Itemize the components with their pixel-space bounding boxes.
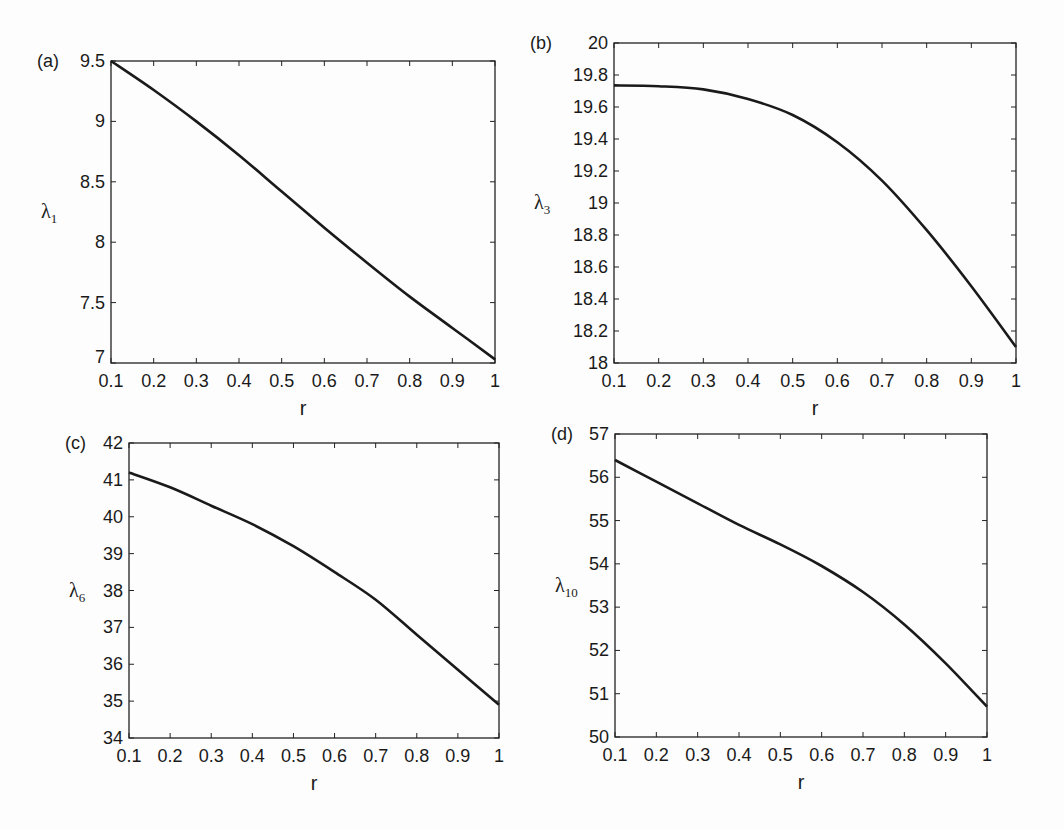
x-tick-label: 0.6 [312,371,337,391]
x-tick-label: 0.5 [269,371,294,391]
y-tick-label: 18.2 [573,321,608,341]
x-tick-label: 0.8 [914,371,939,391]
x-tick-label: 0.7 [363,746,388,766]
y-tick-label: 20 [588,33,608,53]
x-axis-label: r [311,772,318,794]
y-tick-label: 7.5 [80,293,105,313]
x-tick-label: 0.3 [685,745,710,765]
x-tick-label: 0.8 [397,371,422,391]
y-tick-label: 7 [95,347,105,367]
y-tick-label: 8 [95,232,105,252]
y-tick-label: 37 [103,617,123,637]
y-tick-label: 36 [103,654,123,674]
panel-label: (d) [551,424,573,444]
x-tick-label: 0.6 [809,745,834,765]
x-tick-label: 1 [1011,371,1021,391]
x-tick-label: 0.1 [601,371,626,391]
y-tick-label: 19 [588,193,608,213]
x-axis-label: r [812,397,819,419]
x-tick-label: 0.9 [959,371,984,391]
x-tick-label: 0.4 [226,371,251,391]
y-tick-label: 19.6 [573,97,608,117]
x-tick-label: 0.7 [869,371,894,391]
data-line [111,61,495,359]
x-tick-label: 0.4 [240,746,265,766]
x-tick-label: 0.1 [602,745,627,765]
data-line [615,460,987,707]
x-tick-label: 0.5 [281,746,306,766]
y-tick-label: 18.8 [573,225,608,245]
x-tick-label: 0.5 [780,371,805,391]
y-tick-label: 56 [589,467,609,487]
panel-label: (b) [530,33,552,53]
x-tick-label: 0.2 [644,745,669,765]
x-tick-label: 1 [982,745,992,765]
x-tick-label: 0.9 [445,746,470,766]
y-tick-label: 42 [103,433,123,453]
y-tick-label: 19.4 [573,129,608,149]
y-tick-label: 53 [589,597,609,617]
x-tick-label: 0.3 [184,371,209,391]
x-tick-label: 0.1 [116,746,141,766]
y-tick-label: 18.4 [573,289,608,309]
x-tick-label: 0.1 [98,371,123,391]
y-tick-label: 34 [103,728,123,748]
y-tick-label: 38 [103,581,123,601]
data-line [614,85,1016,347]
panel-label: (a) [37,51,59,71]
y-tick-label: 52 [589,640,609,660]
x-tick-label: 0.8 [404,746,429,766]
y-axis-label: λ6 [69,579,86,605]
x-tick-label: 0.6 [322,746,347,766]
axes-frame [614,43,1016,363]
y-tick-label: 41 [103,470,123,490]
x-axis-label: r [798,771,805,793]
y-tick-label: 9 [95,111,105,131]
y-tick-label: 8.5 [80,172,105,192]
y-tick-label: 18 [588,353,608,373]
y-tick-label: 50 [589,727,609,747]
y-axis-label: λ1 [41,200,57,226]
x-tick-label: 0.7 [354,371,379,391]
y-tick-label: 19.2 [573,161,608,181]
panel-label: (c) [65,433,86,453]
x-tick-label: 1 [494,746,504,766]
data-line [129,473,499,705]
y-tick-label: 9.5 [80,51,105,71]
y-tick-label: 57 [589,424,609,444]
x-tick-label: 0.9 [440,371,465,391]
x-tick-label: 0.8 [892,745,917,765]
y-tick-label: 35 [103,691,123,711]
x-tick-label: 0.2 [141,371,166,391]
x-tick-label: 0.9 [933,745,958,765]
x-tick-label: 0.4 [726,745,751,765]
axes-frame [129,443,499,738]
x-axis-label: r [300,397,307,419]
axes-frame [615,434,987,737]
panel-d: 0.10.20.30.40.50.60.70.80.91505152535455… [551,424,992,793]
y-axis-label: λ10 [555,574,578,600]
panel-c: 0.10.20.30.40.50.60.70.80.91343536373839… [65,433,504,794]
x-tick-label: 0.4 [735,371,760,391]
x-tick-label: 0.3 [199,746,224,766]
figure: 0.10.20.30.40.50.60.70.80.9177.588.599.5… [0,0,1064,829]
y-tick-label: 19.8 [573,65,608,85]
x-tick-label: 0.7 [850,745,875,765]
y-tick-label: 40 [103,507,123,527]
y-tick-label: 55 [589,511,609,531]
y-axis-label: λ3 [534,191,550,217]
x-tick-label: 0.5 [768,745,793,765]
y-tick-label: 39 [103,544,123,564]
panel-a: 0.10.20.30.40.50.60.70.80.9177.588.599.5… [37,51,500,419]
x-tick-label: 0.2 [646,371,671,391]
x-tick-label: 0.3 [691,371,716,391]
x-tick-label: 1 [490,371,500,391]
y-tick-label: 54 [589,554,609,574]
panel-b: 0.10.20.30.40.50.60.70.80.911818.218.418… [530,33,1021,419]
y-tick-label: 51 [589,684,609,704]
x-tick-label: 0.6 [825,371,850,391]
y-tick-label: 18.6 [573,257,608,277]
x-tick-label: 0.2 [158,746,183,766]
